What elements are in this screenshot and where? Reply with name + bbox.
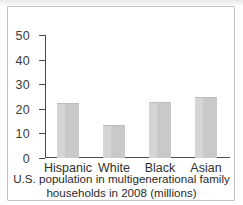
y-tick-40: 40 <box>39 60 45 61</box>
bar-chart-plot-area: 01020304050 HispanicWhiteBlackAsian <box>45 35 237 158</box>
figure-container: 01020304050 HispanicWhiteBlackAsian U.S.… <box>0 0 243 205</box>
bar-highlight <box>149 103 157 158</box>
y-tick-label-40: 40 <box>15 53 30 67</box>
y-tick-20: 20 <box>39 109 45 110</box>
figure-caption: U.S. population in multigenerational fam… <box>12 172 231 200</box>
y-tick-label-50: 50 <box>15 29 30 43</box>
y-tick-10: 10 <box>39 133 45 134</box>
bar-white <box>103 125 125 158</box>
bar-black <box>149 102 171 158</box>
y-tick-label-20: 20 <box>15 103 30 117</box>
y-tick-label-10: 10 <box>15 127 30 141</box>
y-tick-0: 0 <box>39 158 45 159</box>
bar-hispanic <box>57 103 79 158</box>
y-tick-label-30: 30 <box>15 78 30 92</box>
bar-highlight <box>195 98 203 158</box>
caption-line-1: U.S. population in multigenerational fam… <box>13 172 230 185</box>
caption-line-2: households in 2008 (millions) <box>12 186 231 200</box>
y-tick-30: 30 <box>39 84 45 85</box>
bar-highlight <box>57 104 65 158</box>
y-tick-label-0: 0 <box>23 152 30 166</box>
y-axis-line <box>45 35 46 158</box>
figure-inner-area: 01020304050 HispanicWhiteBlackAsian <box>9 8 233 199</box>
bar-asian <box>195 97 217 158</box>
y-tick-50: 50 <box>39 35 45 36</box>
bar-highlight <box>103 126 111 158</box>
